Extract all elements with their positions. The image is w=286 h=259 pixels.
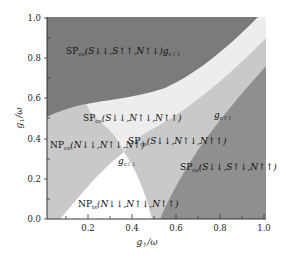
y-tick-label: 1.0 <box>27 13 41 23</box>
y-tick-label: 0.4 <box>27 134 41 144</box>
y-tick-label: 0.8 <box>27 53 41 63</box>
x-tick-label: 0.2 <box>81 223 95 233</box>
x-tick-label: 0.4 <box>125 223 139 233</box>
y-tick-label: 0.0 <box>27 214 41 224</box>
x-tick-label: 0.8 <box>213 223 227 233</box>
x-axis-label: g↑/ω <box>136 237 158 248</box>
x-tick-label: 0.6 <box>169 223 183 233</box>
y-axis-label: g↓/ω <box>14 107 25 129</box>
y-tick-label: 0.6 <box>27 93 41 103</box>
phase-diagram: 0.0 0.2 0.4 0.6 0.8 1.0 0.2 0.4 0.6 0.8 … <box>0 0 286 259</box>
y-tick-label: 0.2 <box>27 174 41 184</box>
x-tick-label: 1.0 <box>257 223 271 233</box>
